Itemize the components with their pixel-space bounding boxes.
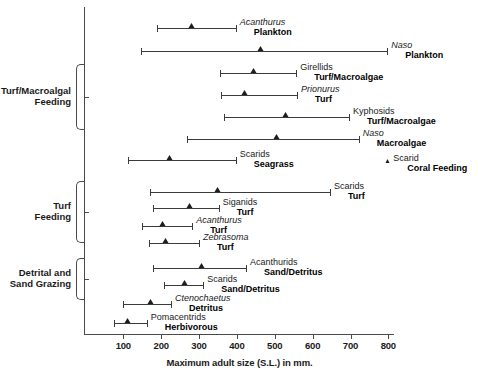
- range-max-cap: [387, 48, 388, 55]
- size-range-bar: [153, 208, 219, 209]
- taxon-name: Scarids: [207, 274, 280, 284]
- range-min-cap: [157, 25, 158, 32]
- group-bracket: [76, 181, 85, 243]
- range-min-cap: [149, 240, 150, 247]
- x-tick-label-100: 100: [116, 340, 131, 351]
- bracket-nub: [85, 97, 89, 98]
- taxon-name: Ctenochaetus: [175, 293, 231, 303]
- size-range-bar: [220, 73, 296, 74]
- group-bracket: [76, 258, 85, 300]
- range-max-cap: [203, 282, 204, 289]
- taxon-name: Acanthurids: [250, 257, 323, 267]
- modal-size-marker: [215, 187, 221, 192]
- group-label-line1: Detrital and: [10, 267, 71, 278]
- taxon-name: Siganids: [223, 197, 258, 207]
- row-label: PrionurusTurf: [301, 84, 340, 105]
- feeding-guild-size-range-chart: 100200300400500600700800 AcanthurusPlank…: [0, 0, 479, 376]
- range-max-cap: [147, 320, 148, 327]
- group-bracket: [76, 64, 85, 130]
- modal-size-marker: [186, 203, 192, 208]
- row-label: ScaridCoral Feeding: [393, 153, 467, 174]
- group-label-line1: Turf/Macroalgal: [1, 85, 71, 96]
- size-range-bar: [123, 304, 171, 305]
- row-label: CtenochaetusDetritus: [175, 293, 231, 314]
- diet-category: Turf: [334, 191, 365, 202]
- x-tick-100: [123, 335, 124, 339]
- modal-size-marker: [250, 68, 256, 73]
- x-tick-200: [161, 335, 162, 339]
- range-min-cap: [224, 114, 225, 121]
- x-tick-300: [199, 335, 200, 339]
- modal-size-marker: [188, 23, 194, 28]
- x-tick-800: [388, 335, 389, 339]
- range-max-cap: [246, 265, 247, 272]
- range-max-cap: [171, 301, 172, 308]
- taxon-name: Acanthurus: [240, 17, 292, 27]
- bracket-nub: [85, 279, 89, 280]
- x-tick-500: [275, 335, 276, 339]
- range-max-cap: [219, 205, 220, 212]
- diet-category: Plankton: [240, 27, 292, 38]
- range-max-cap: [236, 25, 237, 32]
- modal-size-marker: [162, 238, 168, 243]
- row-label: ScaridsSeagrass: [240, 149, 294, 170]
- range-max-cap: [349, 114, 350, 121]
- group-label: Detrital andSand Grazing: [10, 267, 71, 289]
- group-label-line1: Turf: [35, 200, 71, 211]
- x-tick-label-500: 500: [267, 340, 282, 351]
- taxon-name: Scarids: [334, 181, 365, 191]
- x-tick-label-200: 200: [154, 340, 169, 351]
- size-range-bar: [164, 285, 203, 286]
- row-label: NasoMacroalgae: [363, 128, 427, 149]
- size-range-bar: [142, 226, 192, 227]
- diet-category: Seagrass: [240, 159, 294, 170]
- range-min-cap: [141, 48, 142, 55]
- modal-size-marker: [182, 280, 188, 285]
- diet-category: Turf/Macroalgae: [300, 72, 383, 83]
- x-tick-label-800: 800: [381, 340, 396, 351]
- range-min-cap: [220, 70, 221, 77]
- size-range-bar: [141, 51, 387, 52]
- taxon-name: Girellids: [300, 62, 383, 72]
- modal-size-marker: [199, 263, 205, 268]
- range-max-cap: [359, 136, 360, 143]
- modal-size-marker: [386, 159, 390, 163]
- range-min-cap: [128, 157, 129, 164]
- group-label-line2: Feeding: [1, 96, 71, 107]
- taxon-name: Scarid: [393, 153, 467, 163]
- range-max-cap: [199, 240, 200, 247]
- diet-category: Turf: [301, 94, 340, 105]
- size-range-bar: [150, 192, 330, 193]
- taxon-name: Prionurus: [301, 84, 340, 94]
- x-axis-title: Maximum adult size (S.L.) in mm.: [0, 357, 479, 368]
- x-tick-label-600: 600: [305, 340, 320, 351]
- diet-category: Herbivorous: [151, 322, 218, 333]
- row-label: ZebrasomaTurf: [203, 232, 249, 253]
- x-tick-label-700: 700: [343, 340, 358, 351]
- x-tick-label-300: 300: [191, 340, 206, 351]
- taxon-name: Naso: [363, 128, 427, 138]
- group-label-line2: Sand Grazing: [10, 278, 71, 289]
- modal-size-marker: [125, 318, 131, 323]
- group-label: TurfFeeding: [35, 200, 71, 222]
- size-range-bar: [149, 243, 199, 244]
- size-range-bar: [114, 323, 147, 324]
- taxon-name: Acanthurus: [196, 215, 242, 225]
- row-label: ScaridsTurf: [334, 181, 365, 202]
- size-range-bar: [153, 268, 246, 269]
- group-label-line2: Feeding: [35, 211, 71, 222]
- range-max-cap: [330, 189, 331, 196]
- range-min-cap: [123, 301, 124, 308]
- diet-category: Plankton: [391, 50, 443, 61]
- range-min-cap: [187, 136, 188, 143]
- diet-category: Coral Feeding: [393, 163, 467, 174]
- modal-size-marker: [283, 112, 289, 117]
- size-range-bar: [187, 139, 359, 140]
- row-label: NasoPlankton: [391, 40, 443, 61]
- range-max-cap: [296, 70, 297, 77]
- range-min-cap: [221, 92, 222, 99]
- x-tick-600: [313, 335, 314, 339]
- taxon-name: Scarids: [240, 149, 294, 159]
- taxon-name: Kyphosids: [353, 106, 436, 116]
- group-label: Turf/MacroalgalFeeding: [1, 85, 71, 107]
